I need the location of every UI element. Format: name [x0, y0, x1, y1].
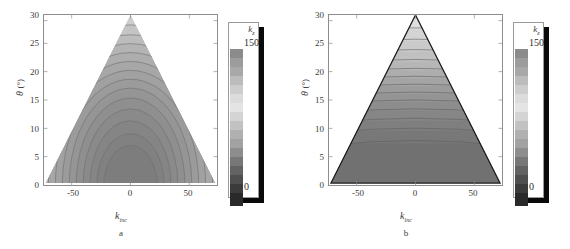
contour-bands-a: [44, 15, 217, 185]
colorbar-b: kz: [513, 22, 547, 200]
y-tick-0-a: 0: [17, 181, 39, 190]
y-tick-30-b: 30: [302, 11, 324, 20]
contour-bands-b: [329, 15, 502, 185]
y-axis-unit-a: (°): [15, 79, 25, 89]
x-axis-subscript-b: inc: [405, 217, 412, 223]
panel-caption-b: b: [381, 228, 431, 238]
y-tick-20-b: 20: [302, 68, 324, 77]
colorbar-title-a: kz: [243, 24, 260, 36]
x-axis-subscript-a: inc: [120, 217, 127, 223]
colorbar-min-label-a: 0: [244, 181, 249, 192]
colorbar-max-label-b: 150: [529, 37, 544, 48]
x-axis-label-a: kinc: [96, 210, 146, 223]
y-tick-25-a: 25: [17, 39, 39, 48]
contour-svg-b: [329, 15, 502, 185]
contour-plot-a: [43, 14, 218, 186]
y-tick-5-b: 5: [302, 153, 324, 162]
x-axis-label-b: kinc: [381, 210, 431, 223]
y-axis-unit-b: (°): [300, 79, 310, 89]
contour-plot-b: [328, 14, 503, 186]
panel-b: θ (°) 30 25 20 15 10 5 0 -50 0 50: [285, 0, 570, 249]
figure-container: θ (°) 30 25 20 15 10 5 0 -50 0 50: [0, 0, 570, 249]
y-tick-0-b: 0: [302, 181, 324, 190]
colorbar-title-sub-a: z: [252, 30, 254, 36]
x-tick-0-b: 0: [400, 189, 430, 198]
colorbar-max-label-a: 150: [244, 37, 259, 48]
y-tick-5-a: 5: [17, 153, 39, 162]
y-tick-15-a: 15: [17, 96, 39, 105]
panel-a: θ (°) 30 25 20 15 10 5 0 -50 0 50: [0, 0, 285, 249]
y-tick-20-a: 20: [17, 68, 39, 77]
x-tick-50-b: 50: [458, 189, 488, 198]
contour-svg-a: [44, 15, 217, 185]
colorbar-box-b: kz: [513, 22, 544, 198]
x-tick-0-a: 0: [115, 189, 145, 198]
colorbar-a: kz: [228, 22, 262, 200]
y-tick-15-b: 15: [302, 96, 324, 105]
x-tick-50-a: 50: [173, 189, 203, 198]
x-tick-neg50-b: -50: [343, 189, 373, 198]
panel-caption-a: a: [96, 228, 146, 238]
colorbar-strip-b: [515, 40, 528, 197]
y-tick-10-a: 10: [17, 125, 39, 134]
colorbar-strip-a: [230, 40, 243, 197]
y-tick-25-b: 25: [302, 39, 324, 48]
colorbar-title-sub-b: z: [537, 30, 539, 36]
colorbar-min-label-b: 0: [529, 181, 534, 192]
y-tick-10-b: 10: [302, 125, 324, 134]
y-tick-30-a: 30: [17, 11, 39, 20]
colorbar-title-b: kz: [528, 24, 545, 36]
x-tick-neg50-a: -50: [58, 189, 88, 198]
colorbar-box-a: kz: [228, 22, 259, 198]
